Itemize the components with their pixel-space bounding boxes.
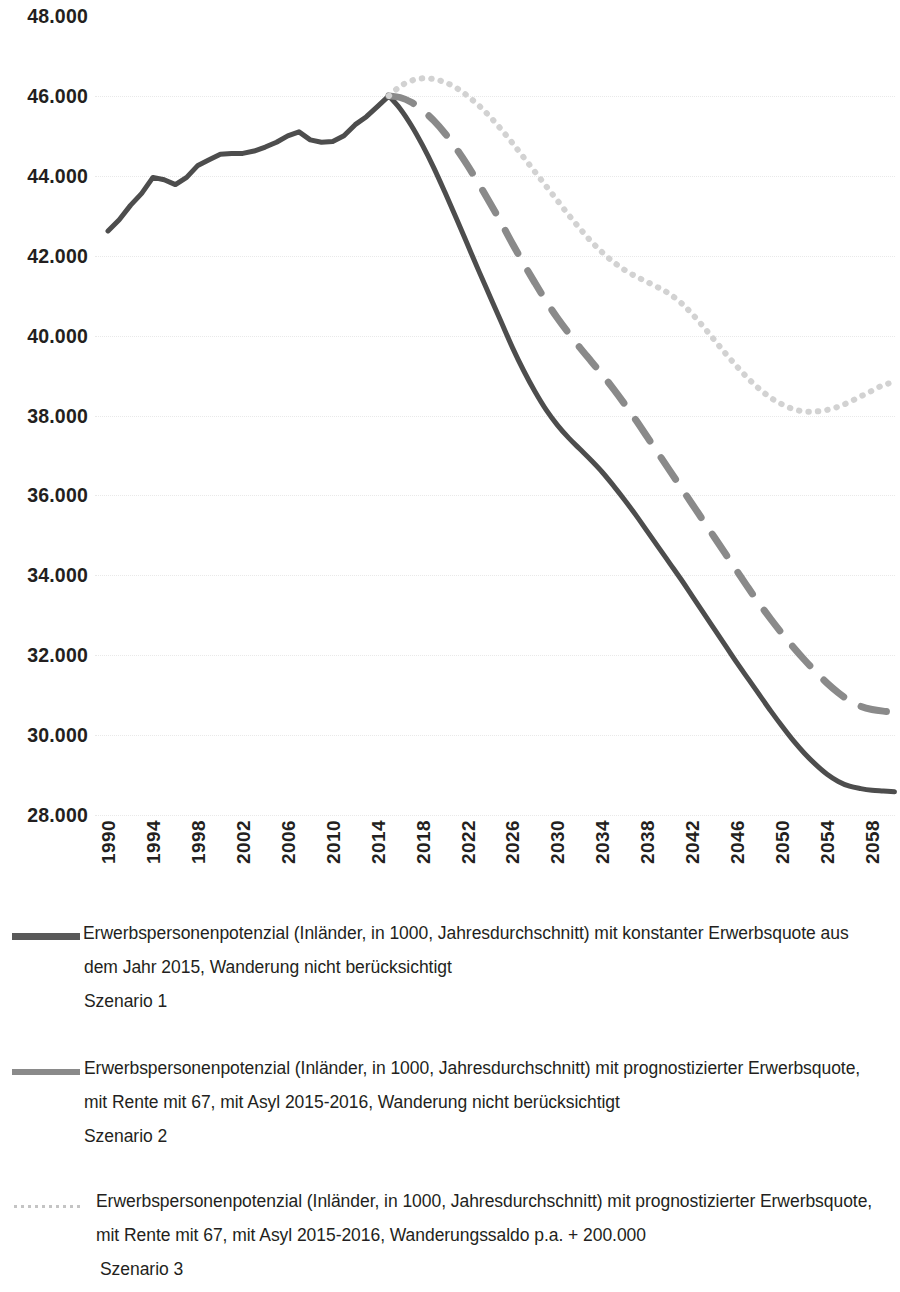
series-line-2: [389, 96, 895, 712]
legend-text-block: Erwerbspersonenpotenzial (Inländer, in 1…: [96, 1184, 900, 1286]
x-axis-tick-label: 2030: [547, 820, 569, 864]
legend-line-1: Erwerbspersonenpotenzial (Inländer, in 1…: [84, 1051, 896, 1085]
y-axis-tick-label: 44.000: [27, 164, 88, 187]
x-axis-tick-label: 2058: [862, 820, 884, 864]
chart-page: 48.00046.00044.00042.00040.00038.00036.0…: [0, 0, 900, 1292]
x-axis-tick-label: 1998: [188, 820, 210, 864]
y-axis-tick-label: 34.000: [27, 564, 88, 587]
y-axis-tick-label: 48.000: [27, 5, 88, 28]
dotted-line-swatch: [12, 1204, 80, 1209]
chart-plot-region: 48.00046.00044.00042.00040.00038.00036.0…: [0, 0, 900, 830]
y-axis-tick-label: 40.000: [27, 324, 88, 347]
x-axis-tick-label: 2050: [772, 820, 794, 864]
x-axis-tick-label: 2034: [592, 820, 614, 864]
x-axis-tick-label: 2018: [413, 820, 435, 864]
legend-line-3: Szenario 1: [84, 984, 896, 1018]
x-axis-tick-label: 2046: [727, 820, 749, 864]
y-axis-tick-label: 28.000: [27, 804, 88, 827]
series-line-1: [108, 96, 894, 792]
x-axis-tick-label: 2042: [682, 820, 704, 864]
legend-line-1: Erwerbspersonenpotenzial (Inländer, in 1…: [96, 1184, 900, 1218]
legend-line-3: Szenario 3: [96, 1252, 900, 1286]
y-axis-labels: 48.00046.00044.00042.00040.00038.00036.0…: [0, 0, 88, 830]
y-axis-tick-label: 42.000: [27, 244, 88, 267]
y-axis-tick-label: 38.000: [27, 404, 88, 427]
x-axis-tick-label: 2054: [817, 820, 839, 864]
solid-line-swatch: [12, 933, 80, 940]
y-axis-tick-label: 32.000: [27, 644, 88, 667]
legend-line-1: Erwerbspersonenpotenzial (Inländer, in 1…: [83, 916, 896, 950]
legend-line-3: Szenario 2: [84, 1119, 896, 1153]
y-axis-tick-label: 30.000: [27, 724, 88, 747]
series-line-3: [389, 78, 895, 412]
x-axis-tick-label: 2022: [458, 820, 480, 864]
x-axis-tick-label: 2014: [368, 820, 390, 864]
legend-text-block: Erwerbspersonenpotenzial (Inländer, in 1…: [84, 916, 896, 1018]
x-axis-tick-label: 2002: [233, 820, 255, 864]
x-axis-labels: 1990199419982002200620102014201820222026…: [95, 820, 895, 912]
legend-line-2: dem Jahr 2015, Wanderung nicht berücksic…: [84, 950, 896, 984]
x-axis-tick-label: 2038: [637, 820, 659, 864]
y-axis-tick-label: 46.000: [27, 84, 88, 107]
series-lines: [95, 0, 895, 816]
x-axis-tick-label: 2010: [323, 820, 345, 864]
x-axis-tick-label: 1990: [98, 820, 120, 864]
dashed-line-swatch: [12, 1069, 80, 1075]
x-axis-tick-label: 1994: [143, 820, 165, 864]
legend-line-2: mit Rente mit 67, mit Asyl 2015-2016, Wa…: [96, 1218, 900, 1252]
y-axis-tick-label: 36.000: [27, 484, 88, 507]
plot-canvas: [95, 0, 895, 816]
legend-line-2: mit Rente mit 67, mit Asyl 2015-2016, Wa…: [84, 1085, 896, 1119]
legend-text-block: Erwerbspersonenpotenzial (Inländer, in 1…: [84, 1051, 896, 1153]
x-axis-tick-label: 2026: [502, 820, 524, 864]
chart-legend: Erwerbspersonenpotenzial (Inländer, in 1…: [0, 916, 900, 1292]
x-axis-tick-label: 2006: [278, 820, 300, 864]
